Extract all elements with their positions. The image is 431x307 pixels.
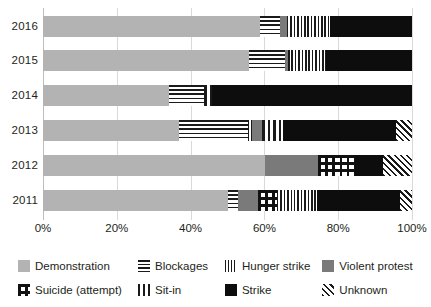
gridline bbox=[338, 8, 339, 220]
gridline bbox=[264, 8, 265, 220]
legend-swatch-icon bbox=[138, 284, 150, 296]
legend-item-unknown[interactable]: Unknown bbox=[322, 284, 418, 296]
bar-segment bbox=[277, 190, 317, 211]
bar-segment bbox=[43, 16, 260, 37]
legend-item-blockages[interactable]: Blockages bbox=[138, 260, 225, 272]
bar-row bbox=[43, 155, 412, 176]
legend-label: Violent protest bbox=[339, 260, 412, 272]
bar-segment bbox=[43, 120, 179, 141]
x-axis-tick-20: 20% bbox=[105, 222, 128, 234]
legend-label: Unknown bbox=[339, 284, 387, 296]
bar-segment bbox=[212, 85, 412, 106]
legend-item-violent-protest[interactable]: Violent protest bbox=[322, 260, 418, 272]
bar-segment bbox=[228, 190, 238, 211]
bar-segment bbox=[396, 120, 412, 141]
bar-segment bbox=[258, 190, 277, 211]
bar-segment bbox=[265, 155, 318, 176]
legend-label: Sit-in bbox=[155, 284, 181, 296]
legend-swatch-icon bbox=[322, 284, 334, 296]
stacked-bar-chart: 201620152014201320122011 0%20%40%60%80%1… bbox=[0, 0, 431, 307]
bar-row bbox=[43, 85, 412, 106]
bar-segment bbox=[43, 155, 265, 176]
gridline bbox=[412, 8, 413, 220]
y-axis-label-2013: 2013 bbox=[0, 120, 38, 141]
legend-item-hunger-strike[interactable]: Hunger strike bbox=[225, 260, 322, 272]
bar-segment bbox=[287, 16, 330, 37]
bar-segment bbox=[383, 155, 412, 176]
chart-legend: DemonstrationBlockagesHunger strikeViole… bbox=[18, 254, 418, 302]
legend-label: Suicide (attempt) bbox=[35, 284, 122, 296]
legend-label: Hunger strike bbox=[242, 260, 310, 272]
y-axis-label-2016: 2016 bbox=[0, 16, 38, 37]
bar-row bbox=[43, 50, 412, 71]
y-axis-line bbox=[43, 8, 44, 220]
legend-swatch-icon bbox=[18, 260, 30, 272]
bar-segment bbox=[283, 120, 396, 141]
legend-item-suicide-attempt[interactable]: Suicide (attempt) bbox=[18, 284, 138, 296]
bar-segment bbox=[179, 120, 248, 141]
stacked-bar bbox=[43, 85, 412, 106]
bar-segment bbox=[43, 50, 249, 71]
legend-swatch-icon bbox=[225, 260, 237, 272]
bar-segment bbox=[204, 85, 212, 106]
plot-area bbox=[43, 8, 412, 220]
bar-segment bbox=[262, 120, 283, 141]
bar-segment bbox=[326, 50, 412, 71]
legend-swatch-icon bbox=[138, 260, 150, 272]
legend-row: Suicide (attempt)Sit-inStrikeUnknown bbox=[18, 278, 418, 302]
legend-label: Strike bbox=[242, 284, 271, 296]
legend-row: DemonstrationBlockagesHunger strikeViole… bbox=[18, 254, 418, 278]
bar-segment bbox=[238, 190, 258, 211]
y-axis-label-2015: 2015 bbox=[0, 50, 38, 71]
x-axis-tick-0: 0% bbox=[35, 222, 52, 234]
legend-swatch-icon bbox=[322, 260, 334, 272]
bar-segment bbox=[43, 190, 228, 211]
x-axis-tick-60: 60% bbox=[253, 222, 276, 234]
gridline bbox=[191, 8, 192, 220]
bar-segment bbox=[318, 155, 355, 176]
stacked-bar bbox=[43, 155, 412, 176]
bar-segment bbox=[355, 155, 383, 176]
bar-row bbox=[43, 16, 412, 37]
stacked-bar bbox=[43, 16, 412, 37]
x-axis-tick-40: 40% bbox=[179, 222, 202, 234]
x-axis-tick-labels: 0%20%40%60%80%100% bbox=[43, 222, 412, 240]
bar-segment bbox=[169, 85, 204, 106]
y-axis-label-2011: 2011 bbox=[0, 190, 38, 211]
legend-item-strike[interactable]: Strike bbox=[225, 284, 322, 296]
x-axis-tick-100: 100% bbox=[397, 222, 426, 234]
bar-segment bbox=[260, 16, 280, 37]
y-axis-category-labels: 201620152014201320122011 bbox=[0, 8, 38, 220]
bar-segment bbox=[400, 190, 412, 211]
bar-segment bbox=[330, 16, 412, 37]
y-axis-label-2012: 2012 bbox=[0, 155, 38, 176]
y-axis-label-2014: 2014 bbox=[0, 85, 38, 106]
legend-swatch-icon bbox=[18, 284, 30, 296]
bar-segment bbox=[288, 50, 326, 71]
legend-swatch-icon bbox=[225, 284, 237, 296]
bar-segment bbox=[280, 16, 287, 37]
gridline bbox=[117, 8, 118, 220]
stacked-bar bbox=[43, 120, 412, 141]
bar-row bbox=[43, 120, 412, 141]
stacked-bar bbox=[43, 50, 412, 71]
bar-segment bbox=[252, 120, 262, 141]
legend-label: Demonstration bbox=[35, 260, 110, 272]
bar-segment bbox=[43, 85, 169, 106]
bar-row bbox=[43, 190, 412, 211]
legend-item-demonstration[interactable]: Demonstration bbox=[18, 260, 138, 272]
x-axis-tick-80: 80% bbox=[327, 222, 350, 234]
legend-item-sit-in[interactable]: Sit-in bbox=[138, 284, 225, 296]
legend-label: Blockages bbox=[155, 260, 208, 272]
stacked-bar bbox=[43, 190, 412, 211]
bar-segment bbox=[317, 190, 400, 211]
bar-segment bbox=[249, 50, 285, 71]
